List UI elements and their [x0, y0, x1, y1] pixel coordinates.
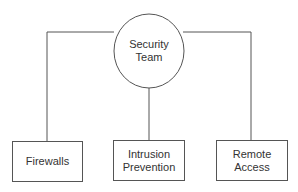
root-label-line1: Security	[129, 38, 169, 51]
node-remote-access-label: Remote Access	[216, 140, 288, 181]
root-node-label: Security Team	[114, 34, 184, 68]
org-diagram: Security Team Firewalls Intrusion Preven…	[0, 0, 298, 192]
firewalls-label-line1: Firewalls	[26, 155, 69, 168]
remote-access-label-line1: Remote Access	[216, 148, 288, 174]
node-intrusion-prevention-label: Intrusion Prevention	[113, 140, 185, 181]
intrusion-label-line1: Intrusion	[128, 148, 170, 161]
connector-firewalls	[47, 32, 114, 141]
root-label-line2: Team	[136, 51, 163, 64]
intrusion-label-line2: Prevention	[123, 161, 176, 174]
connector-remote-access	[183, 32, 251, 140]
node-firewalls-label: Firewalls	[12, 141, 83, 182]
